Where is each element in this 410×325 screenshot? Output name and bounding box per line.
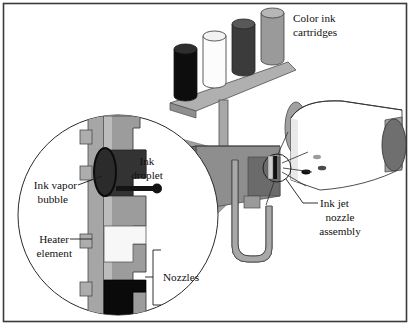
label-color-ink-cartridges-line1: Color ink — [293, 12, 336, 24]
label-heater-element-line2: element — [37, 247, 73, 259]
connector-tab-4 — [80, 282, 92, 296]
nozzle-plate-mini — [273, 156, 277, 179]
cartridge-white — [203, 31, 226, 88]
connector-tab-2 — [80, 166, 92, 180]
label-ink-vapor-bubble-line2: bubble — [38, 193, 68, 205]
ink-vapor-bubble-shape — [94, 148, 116, 196]
ink-dot-mid — [318, 166, 326, 171]
paper-left-shade — [291, 118, 298, 182]
connector-tab-1 — [80, 130, 92, 144]
cartridge-black — [174, 44, 197, 101]
cartridge-gray — [261, 8, 284, 65]
nozzle-body-mini — [268, 156, 273, 179]
label-heater-element-line1: Heater — [39, 233, 69, 245]
droplet-stream — [116, 186, 154, 191]
cartridge-dark-gray — [232, 19, 255, 76]
connector-tab-3 — [80, 234, 92, 248]
diagram-canvas: Color ink cartridges Ink droplet Ink vap… — [0, 0, 410, 325]
label-nozzle-assembly-line1: Ink jet — [320, 197, 350, 209]
label-ink-droplet-line2: droplet — [131, 169, 164, 181]
ink-dot-light — [313, 155, 321, 159]
label-color-ink-cartridges-line2: cartridges — [293, 26, 337, 38]
label-nozzles: Nozzles — [163, 271, 199, 283]
droplet-head — [152, 184, 162, 194]
label-ink-droplet-line1: Ink — [140, 155, 155, 167]
label-ink-vapor-bubble-line1: Ink vapor — [34, 179, 77, 191]
roll-end-right — [382, 119, 406, 171]
label-nozzle-assembly-line2: nozzle — [325, 211, 354, 223]
inkjet-printer-diagram: Color ink cartridges Ink droplet Ink vap… — [0, 0, 410, 325]
label-nozzle-assembly-line3: assembly — [319, 225, 361, 237]
carriage-foot — [244, 196, 260, 208]
